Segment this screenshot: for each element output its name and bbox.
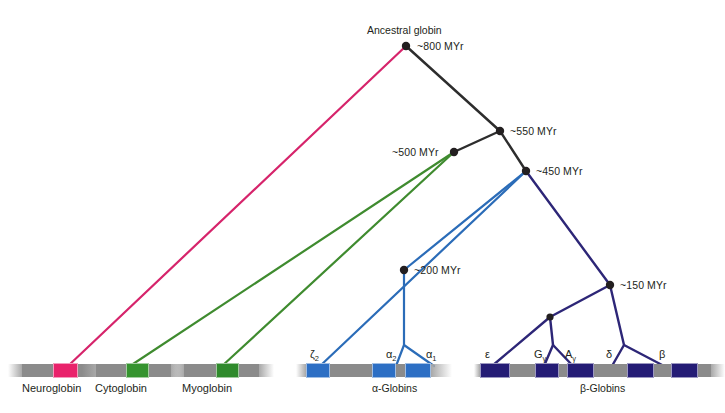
node-age-root: ~800 MYr: [417, 41, 464, 52]
chromosome-segment: [396, 364, 405, 377]
gene-label-Agamma: Aγ: [565, 349, 576, 363]
gene-box-MB[interactable]: [216, 363, 239, 378]
chromosome-segment: [8, 364, 22, 377]
gene-label-beta: β: [659, 349, 665, 360]
gene-box-beta[interactable]: [671, 363, 698, 378]
chromosome-segment: [711, 364, 725, 377]
chromosome-segment: [559, 364, 567, 377]
chromosome-segment: [698, 364, 711, 377]
node-age-n150: ~150 MYr: [620, 280, 667, 291]
chromosome-track-beta-globins: [474, 364, 705, 377]
chromosome-segment: [654, 364, 671, 377]
chromosome-segment: [96, 364, 126, 377]
track-label-Cytoglobin: Cytoglobin: [95, 383, 147, 394]
branch-n450-to-n150: [526, 171, 610, 285]
gene-box-NGB[interactable]: [53, 363, 78, 378]
gene-label-subscript: 1: [432, 354, 436, 363]
gene-label-Ggamma: Gγ: [534, 349, 546, 363]
node-age-n550: ~550 MYr: [510, 126, 557, 137]
branch-n550-to-n450: [500, 131, 526, 171]
branch-root-to-neuroglobin: [68, 46, 406, 366]
track-label-Neuroglobin: Neuroglobin: [22, 383, 81, 394]
gene-box-zeta2[interactable]: [306, 363, 330, 378]
chromosome-track-alpha-globins: [296, 364, 452, 377]
gene-label-subscript: γ: [543, 354, 547, 363]
branch-n200-to-alpha2: [396, 270, 404, 366]
branch-n450-to-n200: [404, 171, 526, 270]
tree-node-n150: [606, 281, 614, 289]
chromosome-segment: [184, 364, 216, 377]
track-label-alpha-globins: α-Globins: [372, 383, 417, 394]
tree-node-root: [402, 42, 410, 50]
node-age-n200: ~200 MYr: [414, 265, 461, 276]
branch-n150-to-nGA: [550, 285, 610, 317]
branch-n500-to-cytoglobin: [130, 152, 454, 366]
gene-label-epsilon: ε: [485, 349, 490, 360]
chromosome-segment: [22, 364, 53, 377]
gene-label-alpha1: α1: [426, 349, 437, 363]
gene-label-subscript: 2: [392, 354, 396, 363]
gene-label-main: G: [534, 348, 543, 360]
tree-node-n500: [450, 148, 458, 156]
chromosome-segment: [296, 364, 306, 377]
gene-label-delta: δ: [606, 349, 612, 360]
node-age-n450: ~450 MYr: [536, 166, 583, 177]
tree-node-nGA: [546, 313, 553, 320]
root-label: Ancestral globin: [367, 25, 442, 36]
gene-box-CYGB[interactable]: [126, 363, 149, 378]
gene-box-Ggamma[interactable]: [535, 363, 559, 378]
gene-label-main: δ: [606, 348, 612, 360]
chromosome-segment: [82, 364, 96, 377]
tree-node-n450: [522, 167, 530, 175]
gene-box-delta[interactable]: [627, 363, 654, 378]
node-layer: [400, 42, 614, 321]
gene-box-alpha2[interactable]: [372, 363, 396, 378]
gene-box-Agamma[interactable]: [567, 363, 594, 378]
chromosome-segment: [149, 364, 171, 377]
chromosome-segment: [330, 364, 372, 377]
gene-box-epsilon[interactable]: [480, 363, 510, 378]
track-label-beta-globins: β-Globins: [580, 383, 625, 394]
branch-n550-to-n500: [454, 131, 500, 152]
branch-layer: [68, 46, 664, 366]
tree-node-n200: [400, 266, 408, 274]
chromosome-segment: [259, 364, 274, 377]
gene-label-main: ε: [485, 348, 490, 360]
chromosome-segment: [170, 364, 184, 377]
gene-label-subscript: 2: [315, 354, 319, 363]
chromosome-segment: [510, 364, 535, 377]
gene-box-alpha1[interactable]: [405, 363, 431, 378]
chromosome-segment: [239, 364, 259, 377]
gene-label-subscript: γ: [572, 354, 576, 363]
gene-label-zeta2: ζ2: [310, 349, 319, 363]
tree-node-n550: [496, 127, 504, 135]
branch-root-to-n550: [406, 46, 500, 131]
gene-label-alpha2: α2: [386, 349, 397, 363]
chromosome-segment: [431, 364, 452, 377]
chromosome-track-Myoglobin: [170, 364, 274, 377]
gene-label-main: β: [659, 348, 665, 360]
track-label-Myoglobin: Myoglobin: [182, 383, 232, 394]
node-age-n500: ~500 MYr: [392, 147, 439, 158]
chromosome-segment: [594, 364, 627, 377]
